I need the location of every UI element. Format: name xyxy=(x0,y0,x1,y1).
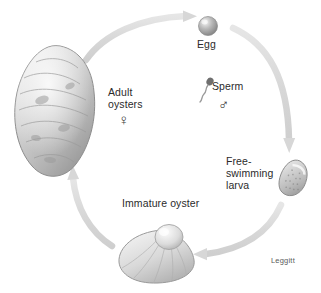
label-adult-oysters: Adult oysters xyxy=(108,86,143,110)
label-free-swimming-larva: Free- swimming larva xyxy=(226,155,273,191)
male-symbol: ♂ xyxy=(218,97,229,112)
oyster-life-cycle-diagram: Adult oysters ♀ Egg Sperm ♂ Free- swimmi… xyxy=(0,0,321,293)
egg-illustration xyxy=(196,14,220,38)
arrow-larva-to-immature xyxy=(193,205,281,260)
label-immature-oyster: Immature oyster xyxy=(122,197,199,209)
label-sperm: Sperm xyxy=(212,80,243,92)
adult-oyster-illustration xyxy=(6,42,106,182)
artist-credit: Leggitt xyxy=(271,256,295,265)
female-symbol: ♀ xyxy=(118,112,129,127)
larva-illustration xyxy=(277,158,311,200)
immature-oyster-illustration xyxy=(112,222,202,288)
label-egg: Egg xyxy=(197,38,216,50)
